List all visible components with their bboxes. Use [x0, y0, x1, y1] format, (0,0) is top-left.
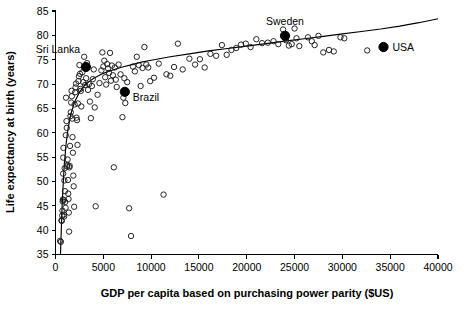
- data-point: [132, 69, 137, 74]
- data-point: [125, 79, 130, 84]
- y-tick-label: 50: [37, 175, 49, 187]
- point-annotations: Sri LankaBrazilSwedenUSA: [36, 15, 414, 103]
- data-point: [202, 65, 207, 70]
- highlighted-data-point-usa: [379, 42, 388, 51]
- data-point: [67, 143, 72, 148]
- data-point: [316, 33, 321, 38]
- data-point: [156, 61, 161, 66]
- data-point: [213, 53, 218, 58]
- highlighted-data-point-brazil: [120, 87, 129, 96]
- x-tick-label: 0: [53, 261, 59, 273]
- data-point: [102, 58, 107, 63]
- data-point: [111, 165, 116, 170]
- y-tick-label: 70: [37, 78, 49, 90]
- data-point: [116, 62, 121, 67]
- annotation-label-usa: USA: [392, 41, 414, 53]
- data-point: [75, 101, 80, 106]
- data-point: [83, 76, 88, 81]
- x-tick-label: 20000: [232, 261, 261, 273]
- data-point: [342, 36, 347, 41]
- data-point: [123, 100, 128, 105]
- y-tick-label: 80: [37, 29, 49, 41]
- data-point: [70, 150, 75, 155]
- x-axis-title: GDP per capita based on purchasing power…: [101, 287, 394, 299]
- data-point: [120, 114, 125, 119]
- data-point: [171, 64, 176, 69]
- y-tick-label: 75: [37, 54, 49, 66]
- y-tick-label: 60: [37, 127, 49, 139]
- y-tick-label: 40: [37, 224, 49, 236]
- data-point: [254, 37, 259, 42]
- y-tick-label: 85: [37, 5, 49, 17]
- data-point: [197, 57, 202, 62]
- data-point: [224, 52, 229, 57]
- x-tick-label: 40000: [423, 261, 452, 273]
- x-axis-ticks: [56, 255, 439, 260]
- data-point: [126, 206, 131, 211]
- annotation-label-sri-lanka: Sri Lanka: [36, 43, 81, 55]
- y-tick-label: 65: [37, 102, 49, 114]
- data-point: [97, 80, 102, 85]
- data-point: [103, 82, 108, 87]
- data-point: [259, 40, 264, 45]
- data-point: [208, 51, 213, 56]
- data-point: [66, 210, 71, 215]
- data-point: [71, 204, 76, 209]
- highlighted-data-point-sweden: [280, 31, 289, 40]
- data-point: [331, 49, 336, 54]
- data-point: [138, 83, 143, 88]
- x-tick-label: 25000: [280, 261, 309, 273]
- data-point: [180, 67, 185, 72]
- data-point: [66, 229, 71, 234]
- data-point: [64, 118, 69, 123]
- data-point: [187, 56, 192, 61]
- chart-canvas: 3540455055606570758085 05000100001500020…: [0, 0, 466, 310]
- x-axis-tick-labels: 0500010000150002000025000300003500040000: [53, 261, 453, 273]
- x-tick-label: 30000: [328, 261, 357, 273]
- data-point: [91, 67, 96, 72]
- data-point: [114, 84, 119, 89]
- data-point: [71, 184, 76, 189]
- data-point: [107, 50, 112, 55]
- data-point: [297, 43, 302, 48]
- scatter-chart-figure: 3540455055606570758085 05000100001500020…: [0, 0, 466, 310]
- data-point: [93, 204, 98, 209]
- data-point: [70, 134, 75, 139]
- data-point: [79, 104, 84, 109]
- x-tick-label: 10000: [137, 261, 166, 273]
- data-point: [100, 50, 105, 55]
- data-points-open: [57, 26, 370, 245]
- data-point: [71, 173, 76, 178]
- annotation-label-sweden: Sweden: [266, 15, 304, 27]
- y-axis-title: Life expectancy at birth (years): [4, 51, 16, 213]
- data-point: [75, 142, 80, 147]
- data-point: [134, 54, 139, 59]
- x-tick-label: 5000: [92, 261, 116, 273]
- data-point: [95, 92, 100, 97]
- data-point: [175, 41, 180, 46]
- data-point: [87, 99, 92, 104]
- data-point: [63, 95, 68, 100]
- data-point: [88, 115, 93, 120]
- data-point: [92, 105, 97, 110]
- data-point: [142, 44, 147, 49]
- annotation-label-brazil: Brazil: [133, 91, 159, 103]
- x-tick-label: 35000: [376, 261, 405, 273]
- data-point: [128, 233, 133, 238]
- data-point: [321, 50, 326, 55]
- trend-line: [60, 19, 438, 255]
- data-point: [65, 177, 70, 182]
- y-tick-label: 35: [37, 248, 49, 260]
- data-point: [81, 54, 86, 59]
- data-points-highlighted: [81, 31, 388, 96]
- data-point: [151, 75, 156, 80]
- data-point: [365, 48, 370, 53]
- data-point: [161, 192, 166, 197]
- data-point: [192, 62, 197, 67]
- x-tick-label: 15000: [184, 261, 213, 273]
- highlighted-data-point-sri-lanka: [81, 62, 90, 71]
- data-point: [338, 35, 343, 40]
- data-point: [219, 42, 224, 47]
- y-tick-label: 55: [37, 151, 49, 163]
- y-tick-label: 45: [37, 200, 49, 212]
